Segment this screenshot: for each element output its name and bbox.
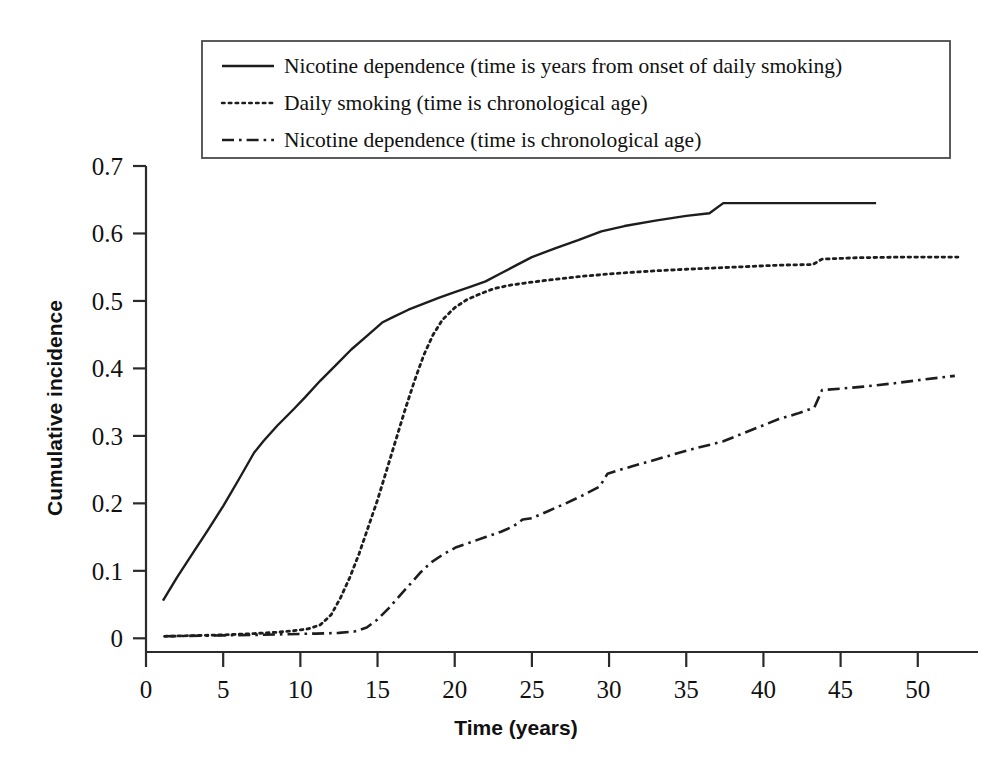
x-tick-label: 20 (442, 676, 467, 703)
legend-label-0: Nicotine dependence (time is years from … (284, 54, 842, 78)
y-axis-title: Cumulative incidence (43, 300, 66, 516)
y-tick-label: 0.7 (92, 153, 123, 180)
y-tick-label: 0.5 (92, 288, 123, 315)
y-tick-label: 0.1 (92, 558, 123, 585)
x-tick-label: 50 (905, 676, 930, 703)
y-tick-label: 0.4 (92, 355, 124, 382)
x-tick-label: 35 (674, 676, 699, 703)
y-tick-label: 0.2 (92, 490, 123, 517)
y-tick-label: 0.3 (92, 423, 123, 450)
x-tick-label: 25 (519, 676, 544, 703)
x-tick-label: 5 (217, 676, 230, 703)
y-tick-label: 0 (111, 625, 124, 652)
x-tick-label: 10 (288, 676, 313, 703)
x-tick-label: 0 (140, 676, 153, 703)
x-tick-label: 40 (751, 676, 776, 703)
x-tick-label: 30 (597, 676, 622, 703)
y-tick-label: 0.6 (92, 220, 123, 247)
legend-label-1: Daily smoking (time is chronological age… (284, 91, 648, 115)
cumulative-incidence-figure: 00.10.20.30.40.50.60.7 05101520253035404… (0, 0, 1004, 759)
x-axis-title: Time (years) (454, 716, 577, 739)
line-chart: 00.10.20.30.40.50.60.7 05101520253035404… (0, 0, 1004, 759)
legend-label-2: Nicotine dependence (time is chronologic… (284, 128, 701, 152)
x-tick-label: 15 (365, 676, 390, 703)
chart-legend: Nicotine dependence (time is years from … (202, 41, 950, 158)
x-tick-label: 45 (828, 676, 853, 703)
